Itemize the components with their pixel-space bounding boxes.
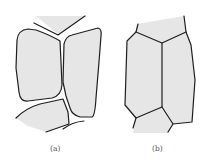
panel-a-top-cell: [36, 16, 84, 34]
panel-a: (a): [16, 16, 101, 153]
panel-b-cells: [125, 16, 195, 133]
panel-a-label: (a): [50, 144, 60, 153]
grain-diagram: (a) (b): [0, 0, 206, 160]
panel-b: (b): [125, 16, 195, 153]
panel-b-label: (b): [152, 144, 163, 153]
panel-a-left-cell: [16, 29, 62, 101]
